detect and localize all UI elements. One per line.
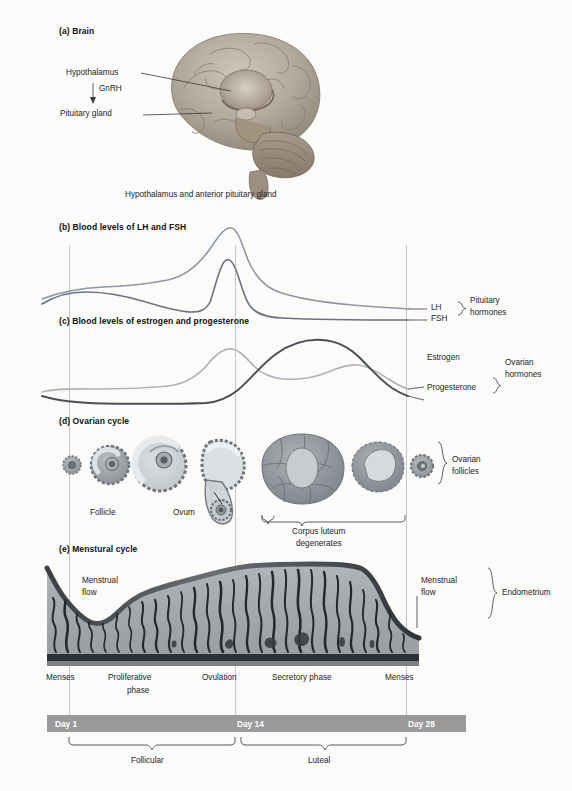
- menstrual-flow-left-label-line2: flow: [82, 588, 97, 597]
- menstrual-flow-right-label-line2: flow: [421, 588, 436, 597]
- corpus-luteum-label-line1: Corpus luteum: [292, 527, 345, 536]
- phase-label-menses-left: Menses: [46, 673, 75, 682]
- pituitary-gland-label: Pituitary gland: [60, 109, 112, 118]
- follicle-label: Follicle: [90, 508, 115, 517]
- estrogen-progesterone-chart: [0, 330, 572, 410]
- day-28-label: Day 28: [408, 719, 435, 729]
- corpus-luteum-label-line2: degenerates: [296, 539, 342, 548]
- corpus-albicans: [352, 442, 404, 492]
- brain-caption: Hypothalamus and anterior pituitary glan…: [125, 190, 277, 199]
- menstrual-flow-left-label-line1: Menstrual: [82, 576, 118, 585]
- phase-brackets: [0, 734, 572, 784]
- estrogen-label: Estrogen: [427, 353, 460, 362]
- fsh-curve: [42, 260, 408, 320]
- phase-label-proliferative-line2: phase: [127, 686, 149, 695]
- myometrium-base: [47, 654, 419, 661]
- figure-root: (a) Brain: [0, 0, 572, 791]
- day-1-label: Day 1: [55, 719, 77, 729]
- follicle-primordial: [63, 456, 81, 474]
- lh-fsh-chart: [0, 222, 572, 322]
- day-14-label: Day 14: [237, 719, 264, 729]
- follicular-phase-label: Follicular: [131, 756, 164, 765]
- panel-d-heading: (d) Ovarian cycle: [59, 416, 129, 426]
- follicle-antral: [134, 439, 186, 491]
- day-timeline-bar: Day 1 Day 14 Day 28: [47, 715, 466, 732]
- lh-label: LH: [431, 303, 441, 312]
- panel-c-heading: (c) Blood levels of estrogen and progest…: [59, 316, 249, 326]
- gnrh-label: GnRH: [99, 84, 122, 93]
- phase-label-ovulation: Ovulation: [202, 673, 237, 682]
- menstrual-flow-right-label-line1: Menstrual: [421, 576, 457, 585]
- ovarian-follicles-group-label-line1: Ovarian: [452, 455, 481, 464]
- endometrium-label: Endometrium: [502, 588, 551, 597]
- estrogen-curve: [42, 349, 408, 392]
- phase-label-menses-right: Menses: [385, 673, 414, 682]
- hypothalamus-label: Hypothalamus: [66, 68, 118, 77]
- follicle-ovulating: [202, 440, 244, 524]
- pituitary-hormones-group-label-line2: hormones: [470, 308, 506, 317]
- fsh-label: FSH: [431, 314, 447, 323]
- follicle-scar: [411, 455, 433, 477]
- ovarian-follicles-group-label-line2: follicles: [452, 467, 479, 476]
- panel-e-heading: (e) Menstural cycle: [59, 544, 137, 554]
- endometrium-illustration: [0, 556, 572, 676]
- phase-label-secretory: Secretory phase: [272, 673, 332, 682]
- corpus-luteum: [262, 434, 344, 504]
- follicle-primary: [91, 446, 129, 484]
- pituitary-hormones-group-label-line1: Pituitary: [470, 296, 500, 305]
- progesterone-label: Progesterone: [427, 383, 476, 392]
- ovarian-hormones-group-label-line2: hormones: [505, 370, 541, 379]
- brain-leader-lines: [0, 0, 572, 200]
- ovarian-hormones-group-label-line1: Ovarian: [505, 358, 534, 367]
- luteal-phase-label: Luteal: [308, 756, 330, 765]
- ovum-label: Ovum: [173, 508, 195, 517]
- phase-label-proliferative: Proliferative: [108, 673, 151, 682]
- lh-curve: [42, 228, 408, 309]
- ovarian-cycle-illustration: [0, 432, 572, 542]
